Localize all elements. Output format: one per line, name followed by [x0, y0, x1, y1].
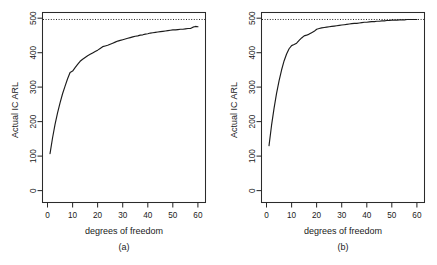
x-tick-label-a-30: 30: [118, 211, 128, 220]
y-tick-label-a-300: 300: [29, 80, 38, 94]
chart-panel-a: 0 100 200 300 400 500 Actual IC ARL 0 10…: [0, 0, 219, 265]
x-tick-label-a-50: 50: [168, 211, 178, 220]
plot-frame-a: [43, 13, 206, 203]
x-tick-label-b-60: 60: [412, 211, 422, 220]
data-curve-a: [50, 26, 198, 153]
y-tick-label-b-200: 200: [248, 114, 257, 128]
chart-svg-b: 0 100 200 300 400 500 Actual IC ARL 0 10…: [219, 0, 437, 265]
y-axis-title-a: Actual IC ARL: [10, 82, 20, 138]
y-tick-label-a-400: 400: [29, 45, 38, 59]
x-ticks-b: [266, 203, 416, 208]
y-tick-label-b-300: 300: [248, 80, 257, 94]
x-tick-label-a-60: 60: [193, 211, 203, 220]
y-tick-label-b-0: 0: [248, 188, 257, 193]
panel-caption-b: (b): [337, 242, 348, 252]
x-ticks-a: [48, 203, 198, 208]
x-tick-label-a-40: 40: [143, 211, 153, 220]
x-tick-label-b-30: 30: [337, 211, 347, 220]
y-tick-label-a-100: 100: [29, 149, 38, 163]
y-tick-label-b-400: 400: [248, 45, 257, 59]
x-tick-label-a-10: 10: [68, 211, 78, 220]
x-axis-title-b: degrees of freedom: [303, 226, 381, 236]
x-tick-label-b-40: 40: [362, 211, 372, 220]
x-tick-label-b-50: 50: [387, 211, 397, 220]
y-tick-label-a-500: 500: [29, 11, 38, 25]
x-tick-label-b-10: 10: [287, 211, 297, 220]
y-tick-label-a-0: 0: [29, 188, 38, 193]
y-tick-label-b-500: 500: [248, 11, 257, 25]
plot-frame-b: [261, 13, 424, 203]
chart-svg-a: 0 100 200 300 400 500 Actual IC ARL 0 10…: [0, 0, 218, 265]
x-tick-label-a-20: 20: [93, 211, 103, 220]
y-ticks-a: [38, 18, 43, 190]
y-ticks-b: [256, 18, 261, 190]
y-tick-label-b-100: 100: [248, 149, 257, 163]
x-tick-label-a-0: 0: [45, 211, 50, 220]
data-curve-b: [269, 19, 417, 145]
x-tick-label-b-20: 20: [312, 211, 322, 220]
y-axis-title-b: Actual IC ARL: [229, 82, 239, 138]
figure-container: 0 100 200 300 400 500 Actual IC ARL 0 10…: [0, 0, 437, 265]
y-tick-label-a-200: 200: [29, 114, 38, 128]
chart-panel-b: 0 100 200 300 400 500 Actual IC ARL 0 10…: [219, 0, 437, 265]
x-tick-label-b-0: 0: [264, 211, 269, 220]
panel-caption-a: (a): [119, 242, 130, 252]
x-axis-title-a: degrees of freedom: [85, 226, 163, 236]
